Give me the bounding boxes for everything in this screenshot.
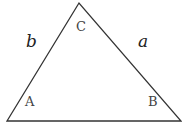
vertex-label-b: B [148,94,158,109]
vertex-label-a: A [24,94,35,109]
side-label-a: a [138,31,148,51]
side-label-b: b [26,31,37,51]
triangle-diagram: C A B b a [0,0,182,132]
vertex-label-c: C [76,19,86,34]
